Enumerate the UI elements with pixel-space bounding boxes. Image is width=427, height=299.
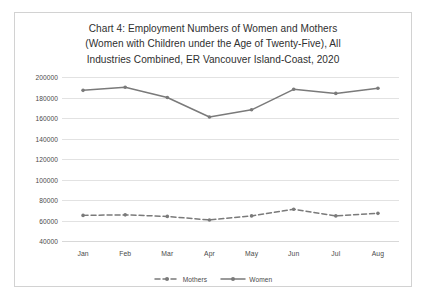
y-axis-tick-label: 60000	[39, 217, 58, 224]
x-axis-tick-label: Jul	[331, 250, 340, 257]
data-point-marker	[250, 214, 254, 218]
data-point-marker	[292, 88, 296, 92]
x-axis-tick-label: May	[245, 250, 258, 257]
data-point-marker	[208, 218, 212, 222]
y-axis-tick-label: 200000	[35, 74, 58, 81]
chart-title-line-2: (Women with Children under the Age of Tw…	[43, 36, 383, 51]
legend-item-women[interactable]: Women	[220, 275, 272, 283]
y-axis-tick-label: 80000	[39, 197, 58, 204]
data-point-marker	[376, 86, 380, 90]
y-axis-tick-label: 140000	[35, 135, 58, 142]
legend-label: Women	[249, 276, 272, 283]
series-mothers	[81, 207, 379, 221]
x-axis-tick-label: Apr	[204, 250, 215, 257]
y-axis-tick-label: 160000	[35, 115, 58, 122]
data-point-marker	[81, 89, 85, 93]
data-point-marker	[123, 213, 127, 217]
chart-legend: MothersWomen	[15, 275, 411, 283]
series-women	[81, 85, 379, 118]
y-axis-tick-label: 40000	[39, 238, 58, 245]
data-point-marker	[334, 92, 338, 96]
data-point-marker	[292, 207, 296, 211]
dashed-line-marker-icon	[154, 275, 180, 283]
y-axis-tick-label: 100000	[35, 176, 58, 183]
legend-label: Mothers	[183, 276, 208, 283]
data-point-marker	[166, 215, 170, 219]
series-line	[83, 209, 378, 220]
legend-item-mothers[interactable]: Mothers	[154, 275, 208, 283]
x-axis-tick-label: Aug	[372, 250, 384, 257]
data-point-marker	[123, 85, 127, 89]
solid-line-marker-icon	[220, 275, 246, 283]
x-axis-tick-label: Mar	[161, 250, 173, 257]
data-point-marker	[250, 108, 254, 112]
gridline	[62, 241, 399, 242]
data-point-marker	[208, 115, 212, 119]
series-group	[62, 77, 399, 241]
y-axis-tick-label: 120000	[35, 156, 58, 163]
series-line	[83, 87, 378, 117]
data-point-marker	[334, 214, 338, 218]
x-axis-tick-label: Jan	[77, 250, 88, 257]
x-axis-tick-label: Jun	[288, 250, 299, 257]
chart-container: Chart 4: Employment Numbers of Women and…	[14, 12, 412, 287]
data-point-marker	[166, 96, 170, 100]
plot-area: 2000001800001600001400001200001000008000…	[62, 77, 399, 241]
chart-title-line-1: Chart 4: Employment Numbers of Women and…	[43, 21, 383, 36]
data-point-marker	[81, 214, 85, 218]
x-axis-tick-label: Feb	[119, 250, 131, 257]
data-point-marker	[376, 212, 380, 216]
y-axis-tick-label: 180000	[35, 94, 58, 101]
chart-title: Chart 4: Employment Numbers of Women and…	[43, 21, 383, 67]
chart-title-line-3: Industries Combined, ER Vancouver Island…	[43, 52, 383, 67]
